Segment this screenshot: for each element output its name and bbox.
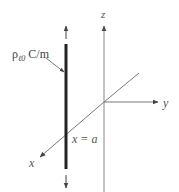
y-axis-label: y	[163, 97, 168, 109]
diagram-canvas	[0, 0, 179, 192]
charge-unit: C/m	[25, 47, 49, 61]
z-axis-label: z	[101, 9, 105, 20]
x-axis	[40, 102, 104, 157]
x-axis-label: x	[29, 157, 34, 169]
charge-density-label: ρℓ0 C/m	[12, 48, 49, 63]
x-axis-back	[104, 73, 139, 102]
line-charge-diagram: ρℓ0 C/m z y x x = a	[0, 0, 179, 192]
line-position-label: x = a	[72, 133, 97, 145]
